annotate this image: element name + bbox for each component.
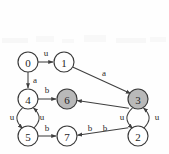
edge-3-to-2 bbox=[127, 108, 133, 129]
edge-label-1-to-3: a bbox=[102, 68, 106, 78]
edge-label-2-to-3: u bbox=[155, 112, 160, 122]
node-6[interactable]: 6 bbox=[57, 89, 77, 109]
edge-3-to-6 bbox=[77, 100, 129, 109]
node-7[interactable]: 7 bbox=[57, 126, 77, 146]
node-2-label: 2 bbox=[135, 131, 141, 143]
node-1-label: 1 bbox=[61, 57, 67, 69]
edge-5-to-4 bbox=[34, 108, 40, 129]
node-7-label: 7 bbox=[64, 131, 70, 143]
edge-label-4-to-5: u bbox=[10, 112, 15, 122]
edge-label-0-to-1: u bbox=[44, 48, 49, 58]
edge-label-3-to-2: u bbox=[120, 112, 125, 122]
state-transition-graph: u a a b b u u u u bbox=[0, 0, 169, 154]
diagram-canvas: u a a b b u u u u bbox=[0, 0, 169, 154]
edge-4-to-5 bbox=[17, 108, 23, 129]
node-2[interactable]: 2 bbox=[128, 126, 148, 146]
node-6-label: 6 bbox=[64, 94, 70, 106]
edge-label-4-to-6: b bbox=[45, 85, 50, 95]
node-5-label: 5 bbox=[25, 131, 31, 143]
node-0-label: 0 bbox=[25, 57, 31, 69]
node-3-label: 3 bbox=[135, 94, 141, 106]
node-1[interactable]: 1 bbox=[54, 52, 74, 72]
edge-2-to-3 bbox=[144, 108, 150, 129]
edge-label-0-to-4: a bbox=[33, 75, 37, 85]
edge-label-5-to-7: b bbox=[45, 123, 50, 133]
nodes-layer: 0 1 4 6 3 5 bbox=[18, 52, 148, 146]
edge-label-5-to-4: u bbox=[40, 112, 45, 122]
node-4[interactable]: 4 bbox=[18, 89, 38, 109]
edge-label-2-to-7: b bbox=[103, 123, 108, 133]
node-5[interactable]: 5 bbox=[18, 126, 38, 146]
node-4-label: 4 bbox=[25, 94, 31, 106]
edge-label-3-to-6: b bbox=[88, 123, 93, 133]
node-3[interactable]: 3 bbox=[128, 89, 148, 109]
node-0[interactable]: 0 bbox=[18, 52, 38, 72]
